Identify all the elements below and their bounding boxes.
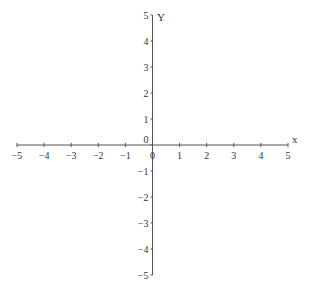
x-axis-label: x (292, 133, 298, 145)
x-tick-label: −5 (12, 150, 23, 161)
x-tick-label: −4 (39, 150, 50, 161)
x-tick-label: 5 (286, 150, 291, 161)
x-tick-label: −2 (93, 150, 104, 161)
y-tick-label: −1 (138, 166, 149, 177)
y-tick-label: −5 (138, 270, 149, 281)
y-tick-label: 4 (144, 36, 149, 47)
x-tick-label: −1 (120, 150, 131, 161)
y-tick-label: 2 (144, 88, 149, 99)
y-tick-label: 0 (144, 134, 149, 145)
x-tick-label: 1 (177, 150, 182, 161)
y-tick-label: −4 (138, 244, 149, 255)
x-tick-label: −3 (66, 150, 77, 161)
x-tick-label: 3 (231, 150, 236, 161)
y-tick-label: −3 (138, 218, 149, 229)
x-tick-label: 2 (204, 150, 209, 161)
y-axis-label: Y (157, 11, 165, 23)
x-axis-ticks: −5−4−3−2−1012345 (12, 143, 291, 161)
y-tick-label: 5 (144, 10, 149, 21)
y-tick-label: −2 (138, 192, 149, 203)
y-tick-label: 3 (144, 62, 149, 73)
x-tick-label: 0 (150, 150, 155, 161)
cartesian-plot: −5−4−3−2−1012345 −5−4−3−2−1012345 x Y (0, 0, 309, 281)
y-tick-label: 1 (144, 114, 149, 125)
x-tick-label: 4 (258, 150, 263, 161)
